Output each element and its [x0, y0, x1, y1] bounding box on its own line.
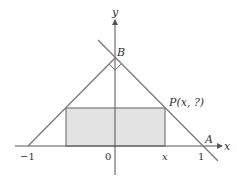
point-a-label: A [204, 133, 213, 146]
diagram: y x B A P(x, ?) −1 0 x 1 [0, 0, 237, 179]
tick-one: 1 [198, 151, 204, 162]
tick-origin: 0 [105, 151, 111, 162]
x-axis-label: x [224, 140, 231, 153]
point-b-label: B [116, 46, 125, 59]
y-axis-label: y [111, 6, 119, 19]
tick-x: x [162, 151, 168, 162]
tick-neg-one: −1 [20, 151, 35, 162]
point-p-label: P(x, ?) [168, 96, 204, 109]
